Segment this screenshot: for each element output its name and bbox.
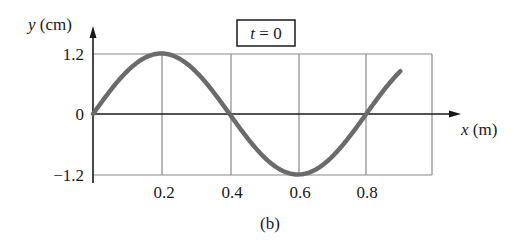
wave-chart: 1.2 0 −1.2 0.2 0.4 0.6 0.8 y (cm) x (m) … [0,0,523,244]
y-tick-label: 0 [76,105,85,124]
y-axis-arrow-icon [90,26,97,38]
x-tick-label: 0.2 [153,183,174,202]
x-axis-arrow-icon [449,111,461,118]
y-axis-label: y (cm) [26,15,72,34]
figure-caption: (b) [260,214,280,233]
y-tick-label: −1.2 [53,166,84,185]
chart-title: t = 0 [250,24,281,43]
y-tick-label: 1.2 [63,45,84,64]
x-axis-label: x (m) [460,120,497,139]
x-tick-label: 0.8 [356,183,377,202]
x-tick-label: 0.4 [221,183,243,202]
x-tick-label: 0.6 [289,183,310,202]
axes [90,26,462,183]
